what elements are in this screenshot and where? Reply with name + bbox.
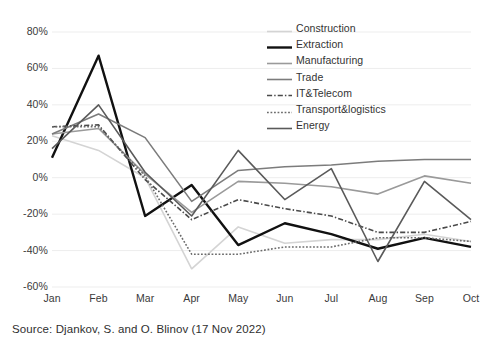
x-axis-tick-label: Oct (449, 292, 483, 304)
legend-item-manufacturing[interactable]: Manufacturing (266, 52, 471, 68)
line-chart: ConstructionExtractionManufacturingTrade… (0, 0, 483, 347)
legend-swatch-transport-logistics (266, 104, 293, 115)
legend-item-it-telecom[interactable]: IT&Telecom (266, 85, 471, 101)
legend-label-it-telecom: IT&Telecom (296, 87, 352, 99)
legend-item-transport-logistics[interactable]: Transport&logistics (266, 101, 471, 117)
legend-swatch-it-telecom (266, 87, 293, 98)
legend-item-trade[interactable]: Trade (266, 69, 471, 85)
legend-label-construction: Construction (296, 22, 356, 34)
x-axis-tick-label: Jan (30, 292, 74, 304)
y-axis-tick-label: 60% (6, 61, 48, 73)
x-axis-tick-label: Feb (77, 292, 121, 304)
x-axis-tick-label: Jul (309, 292, 353, 304)
legend-label-manufacturing: Manufacturing (296, 54, 363, 66)
series-line-construction (52, 136, 471, 269)
y-axis-tick-label: 80% (6, 25, 48, 37)
y-axis-tick-label: 0% (6, 171, 48, 183)
legend-label-trade: Trade (296, 71, 323, 83)
legend-label-extraction: Extraction (296, 38, 343, 50)
y-axis-tick-label: 20% (6, 134, 48, 146)
legend-label-transport-logistics: Transport&logistics (296, 103, 386, 115)
legend-label-energy: Energy (296, 119, 330, 131)
x-axis-tick-label: Sep (402, 292, 446, 304)
y-axis-tick-label: -40% (6, 244, 48, 256)
legend-item-extraction[interactable]: Extraction (266, 36, 471, 52)
x-axis-tick-label: Apr (170, 292, 214, 304)
y-axis-tick-label: 40% (6, 98, 48, 110)
x-axis-tick-label: May (216, 292, 260, 304)
x-axis-tick-label: Jun (263, 292, 307, 304)
source-caption: Source: Djankov, S. and O. Blinov (17 No… (12, 323, 266, 335)
legend-item-energy[interactable]: Energy (266, 117, 471, 133)
x-axis-tick-label: Mar (123, 292, 167, 304)
legend-swatch-manufacturing (266, 55, 293, 66)
legend-item-construction[interactable]: Construction (266, 20, 471, 36)
legend-swatch-trade (266, 71, 293, 82)
y-axis-tick-label: -60% (6, 280, 48, 292)
y-axis-tick-label: -20% (6, 207, 48, 219)
legend-swatch-energy (266, 120, 293, 131)
legend-swatch-extraction (266, 39, 293, 50)
legend-swatch-construction (266, 23, 293, 34)
x-axis-tick-label: Aug (356, 292, 400, 304)
chart-legend: ConstructionExtractionManufacturingTrade… (266, 20, 471, 133)
